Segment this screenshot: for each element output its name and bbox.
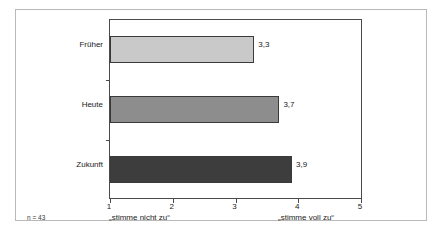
- bar-value-label-frueher: 3,3: [258, 40, 269, 50]
- bar-value-label-heute: 3,7: [283, 100, 294, 110]
- plot-area: Früher 3,3 Heute 3,7 Zukunft 3,9: [109, 19, 362, 199]
- chart-figure: Früher 3,3 Heute 3,7 Zukunft 3,9 12345 „…: [15, 9, 427, 221]
- x-axis-tick-label: 2: [170, 202, 174, 212]
- bar-row: Zukunft 3,9: [110, 140, 361, 200]
- category-label-heute: Heute: [82, 100, 103, 110]
- bar-row: Heute 3,7: [110, 80, 361, 140]
- scale-caption-low: „stimme nicht zu“: [109, 213, 170, 223]
- bar-frueher[interactable]: [110, 36, 254, 63]
- bar-row: Früher 3,3: [110, 20, 361, 80]
- bar-value-label-zukunft: 3,9: [296, 160, 307, 170]
- bar-heute[interactable]: [110, 96, 279, 123]
- x-axis-tick-label: 4: [295, 202, 299, 212]
- scale-caption-high: „stimme voll zu“: [278, 213, 334, 223]
- category-label-zukunft: Zukunft: [76, 160, 103, 170]
- bar-zukunft[interactable]: [110, 156, 292, 183]
- category-label-frueher: Früher: [79, 40, 103, 50]
- x-axis-tick-label: 3: [232, 202, 236, 212]
- sample-size-annotation: n = 43: [27, 213, 45, 222]
- x-axis-tick-label: 1: [107, 202, 111, 212]
- x-axis-tick-label: 5: [358, 202, 362, 212]
